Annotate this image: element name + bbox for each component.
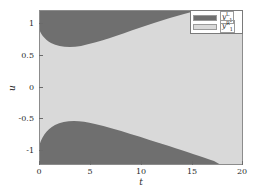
legend: yL1 yR1 (190, 10, 243, 34)
legend-swatch-dark (193, 15, 217, 21)
y-tick-label: -1 (26, 146, 34, 155)
x-tick-mark (242, 161, 243, 165)
upper-lobe-path (39, 10, 199, 47)
x-tick-label: 5 (87, 167, 92, 176)
x-tick-label: 10 (136, 167, 146, 176)
legend-item-y-hat-R-1[interactable]: yR1 (193, 23, 240, 31)
x-axis-label: t (139, 177, 143, 187)
lower-lobe-path (39, 121, 221, 165)
y-tick-mark (39, 150, 43, 151)
y-tick-label: 0 (29, 83, 34, 92)
y-tick-mark (39, 87, 43, 88)
y-tick-mark (39, 118, 43, 119)
y-axis-label: u (7, 85, 17, 91)
x-tick-mark (192, 161, 193, 165)
y-tick-mark (39, 55, 43, 56)
y-tick-label: 1 (29, 19, 34, 28)
y-tick-label: 0.5 (21, 51, 34, 60)
chart-figure: 0 5 10 15 20 1 0.5 0 -0.5 -1 t u yL1 yR1 (0, 0, 254, 193)
y-tick-mark (39, 23, 43, 24)
x-tick-mark (39, 161, 40, 165)
legend-label-y-hat-R-1: yR1 (220, 20, 235, 33)
y-tick-label: -0.5 (19, 114, 34, 123)
x-tick-label: 15 (187, 167, 197, 176)
x-tick-mark (141, 161, 142, 165)
x-tick-mark (90, 161, 91, 165)
legend-swatch-light (193, 24, 217, 30)
x-tick-label: 20 (237, 167, 247, 176)
legend-label-sub-R: 1 (230, 26, 233, 32)
x-tick-label: 0 (36, 167, 41, 176)
